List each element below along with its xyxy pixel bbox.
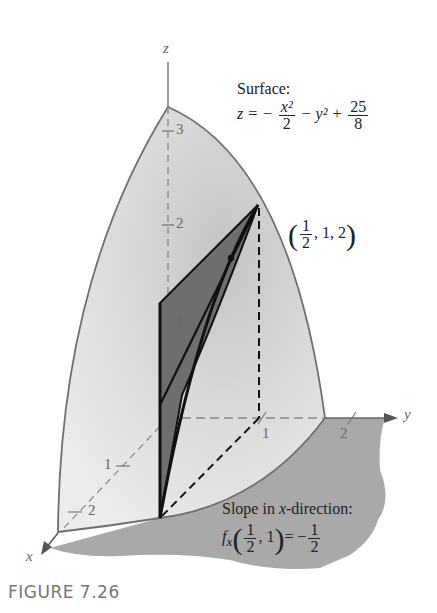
z-tick-label-3: 3: [176, 121, 184, 138]
x-axis-label: x: [26, 548, 33, 565]
surface-eq-frac2: 258: [348, 99, 368, 132]
slope-equation: fx(12, 1)= −12: [222, 522, 322, 555]
point-marker: [228, 255, 234, 261]
y-tick-label-1: 1: [262, 425, 270, 442]
x-tick-label-2: 2: [88, 502, 96, 519]
z-axis-label: z: [163, 40, 169, 57]
y-axis-label: y: [404, 406, 411, 423]
surface-equation: z = − x²2 − y² + 258: [237, 99, 370, 132]
figure-caption: FIGURE 7.26: [8, 582, 120, 602]
z-tick-label-1: 1: [176, 312, 184, 329]
z-tick-label-2: 2: [176, 215, 184, 232]
surface-eq-lhs: z = −: [237, 105, 273, 122]
surface-title: Surface:: [237, 80, 290, 98]
surface-eq-mid: − y² +: [301, 105, 343, 122]
y-tick-label-2: 2: [340, 425, 348, 442]
slope-title: Slope in x-direction:: [222, 500, 353, 518]
surface-eq-frac1: x²2: [279, 99, 295, 132]
x-tick-label-1: 1: [104, 456, 112, 473]
surface-plot-figure: [0, 0, 437, 613]
y-axis-arrow: [384, 413, 398, 423]
point-label: (12, 1, 2): [288, 218, 356, 251]
